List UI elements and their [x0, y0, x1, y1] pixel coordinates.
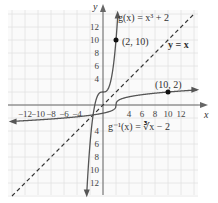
- y-axis-label: y: [92, 1, 98, 12]
- data-point: [166, 90, 171, 95]
- x-tick-label: −8: [46, 109, 56, 119]
- y-tick-label: 12: [90, 178, 99, 188]
- ginv-label: g⁻¹(x) = ∛x − 2: [108, 121, 170, 133]
- y-tick-label: 6: [95, 61, 100, 71]
- y-tick-label: 8: [95, 152, 100, 162]
- function-inverse-graph: x y −12−10−8−6−4468101212108644681012 g(…: [0, 0, 218, 203]
- y-tick-label: 12: [90, 22, 99, 32]
- y-tick-label: 10: [90, 165, 100, 175]
- point-label-10-2: (10, 2): [155, 79, 182, 91]
- point-label-2-10: (2, 10): [122, 36, 149, 48]
- y-tick-label: 4: [95, 126, 100, 136]
- x-tick-label: 6: [140, 109, 145, 119]
- y-tick-label: 10: [90, 35, 100, 45]
- y-tick-label: 8: [95, 48, 100, 58]
- x-tick-label: 12: [177, 109, 186, 119]
- y-axis-arrow-icon: [100, 4, 106, 12]
- x-tick-label: 8: [153, 109, 158, 119]
- x-tick-label: −10: [31, 109, 46, 119]
- x-tick-label: −12: [18, 109, 32, 119]
- g-label: g(x) = x³ + 2: [118, 12, 169, 24]
- y-tick-label: 6: [95, 139, 100, 149]
- x-tick-label: 10: [164, 109, 174, 119]
- x-tick-label: 4: [127, 109, 132, 119]
- x-axis-label: x: [203, 109, 209, 120]
- data-point: [114, 38, 119, 43]
- y-tick-label: 4: [95, 74, 100, 84]
- identity-label: y = x: [168, 39, 189, 50]
- x-axis-arrow-icon: [200, 102, 208, 108]
